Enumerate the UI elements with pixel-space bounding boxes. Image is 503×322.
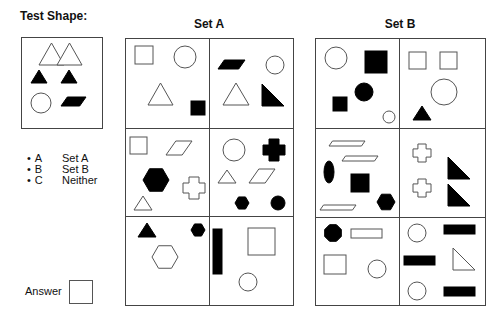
outline-square-shape [440,52,457,69]
set-a-cell-r2c2 [218,139,285,210]
outline-triangle-shape [223,83,249,105]
outline-square-shape [324,255,346,274]
black-rect-shape [444,225,475,234]
outline-parallelogram-shape [249,169,275,183]
answer-label: Answer [25,285,62,297]
set-a-cell-r3c1 [138,223,205,268]
set-a-cell-r2c1 [130,137,205,210]
outline-circle-shape [408,282,426,300]
outline-circle-shape [239,273,257,291]
outline-triangle-shape [134,196,152,210]
black-hexagon-shape [191,224,205,236]
option-c-key: C [27,175,62,186]
outline-square-shape [135,46,153,64]
outline-circle-shape [325,47,347,69]
outline-rect-shape [351,229,382,238]
black-right-triangle-shape [448,157,470,179]
outline-circle-shape [408,224,426,242]
outline-square-shape [130,137,147,154]
black-circle-shape [355,83,373,101]
black-triangle-shape [413,106,431,120]
outline-circle-shape [383,111,395,123]
set-b-cell-r2c1 [320,141,395,210]
outline-triangle-shape [148,83,173,105]
black-rect-shape [213,229,222,274]
outline-parallelogram-shape [329,141,365,146]
black-circle-shape [271,196,285,210]
answer-options-legend: A Set A B Set B C Neither [27,153,97,186]
outline-parallelogram-shape [320,205,356,210]
black-right-triangle-shape [262,84,284,106]
outline-cross-shape [183,177,205,199]
set-a-panel [130,46,285,291]
black-triangle-shape [31,70,47,83]
black-rect-shape [444,287,475,296]
outline-right-triangle-outline-shape [453,248,475,270]
outline-circle-shape [31,93,51,113]
outline-square-shape [248,228,275,255]
black-triangle-shape [61,70,77,83]
black-square-shape [365,51,387,73]
black-cross-shape [263,139,285,161]
black-rect-shape [404,256,435,265]
outline-parallelogram-shape [342,156,378,161]
outline-hexagon-shape [152,246,178,269]
answer-input-box[interactable] [69,280,93,304]
outline-cross-shape [413,144,431,162]
set-b-cell-r1c1 [325,47,395,123]
black-ellipse-shape [324,161,334,183]
test-shape-panel [31,43,86,113]
black-square-shape [351,174,369,192]
option-c-label: Neither [62,175,97,186]
option-b-key: B [27,164,62,175]
black-parallelogram-shape [218,60,245,69]
option-a-key: A [27,153,62,164]
outline-circle-shape [368,260,386,278]
set-b-cell-r1c2 [409,52,457,120]
black-parallelogram-shape [61,97,86,106]
black-right-triangle-shape [448,184,470,206]
set-a-cell-r1c1 [135,46,205,115]
black-hexagon-shape [143,169,169,192]
set-b-panel [320,47,475,300]
set-b-cell-r2c2 [413,144,470,206]
black-hexagon-shape [235,197,249,209]
outline-circle-shape [266,56,284,74]
outline-triangle-shape [218,170,236,183]
outline-circle-shape [174,46,196,68]
black-triangle-shape [138,223,156,237]
set-b-cell-r3c2 [404,224,475,300]
set-a-cell-r1c2 [218,56,284,106]
option-c[interactable]: C Neither [27,175,97,186]
outline-triangle-shape [57,43,82,65]
outline-parallelogram-shape [166,141,192,155]
black-square-shape [191,101,205,115]
set-b-cell-r3c1 [324,225,386,278]
set-a-cell-r3c2 [213,228,275,291]
black-square-shape [333,97,347,111]
outline-circle-shape [431,79,457,105]
outline-circle-shape [223,139,245,161]
outline-square-shape [409,52,426,69]
black-octagon-shape [325,225,342,242]
black-hexagon-shape [377,194,395,210]
outline-cross-shape [413,179,431,197]
